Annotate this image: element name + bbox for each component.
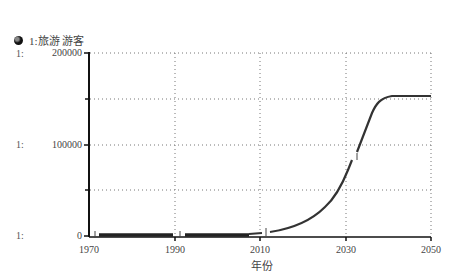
x-tick-1970: 1970 [69,244,109,255]
x-axis-title: 年份 [251,257,273,271]
series-markers [95,153,357,238]
x-tick-2050: 2050 [411,244,451,255]
series-line-tourists [249,96,431,234]
x-tick-2030: 2030 [326,244,366,255]
x-tick-2010: 2010 [240,244,280,255]
line-chart [0,0,460,271]
x-tick-1990: 1990 [155,244,195,255]
